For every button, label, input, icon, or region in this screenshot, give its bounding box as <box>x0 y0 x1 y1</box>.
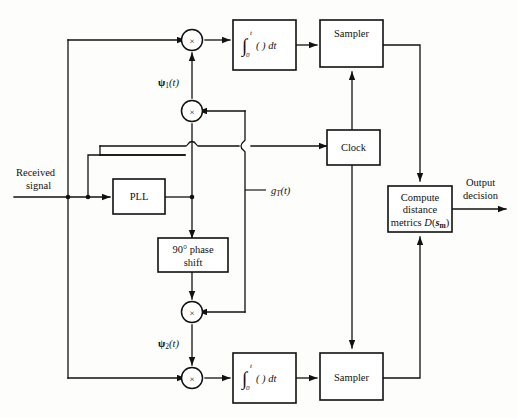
sampler-top-label: Sampler <box>334 28 369 39</box>
integrator-top-block[interactable]: ∫ t 0 ( ) dt <box>233 20 296 70</box>
junction-second-tap <box>86 195 91 200</box>
received-signal-label: Received signal <box>16 167 56 191</box>
integral-lower-limit: 0 <box>246 384 250 392</box>
phase-shift-block[interactable]: 90° phase shift <box>158 238 228 272</box>
mixer-bottom-signal[interactable]: × <box>182 368 203 389</box>
psi1-argument: (t) <box>169 77 179 89</box>
received-signal-line2: signal <box>26 180 51 191</box>
phase-shift-label-line1: 90° phase <box>172 244 214 255</box>
multiply-icon: × <box>189 107 194 117</box>
junction-input-tap <box>66 195 71 200</box>
integrator-bottom-block[interactable]: ∫ t 0 ( ) dt <box>233 353 296 403</box>
multiply-icon: × <box>189 308 194 318</box>
pll-label: PLL <box>130 191 149 202</box>
mixer-bottom-carrier[interactable]: × <box>182 302 203 323</box>
compute-label-line1: Compute <box>401 192 440 203</box>
compute-paren-close: ) <box>446 217 450 229</box>
clock-block[interactable]: Clock <box>327 130 380 165</box>
output-decision-line2: decision <box>463 190 499 201</box>
psi1-label: ψ1(t) <box>158 77 179 90</box>
compute-metrics-word: metrics <box>391 217 425 228</box>
multiply-icon: × <box>189 36 194 46</box>
multiply-icon: × <box>189 374 194 384</box>
wire-bus-hop-over-spine <box>100 142 239 147</box>
psi2-argument: (t) <box>169 338 179 350</box>
psi2-label: ψ2(t) <box>158 338 179 351</box>
output-decision-label: Output decision <box>463 177 499 201</box>
integrator-top-body: ( ) dt <box>256 40 277 52</box>
block-diagram-canvas: ∫ t 0 ( ) dt ∫ t 0 ( ) dt Sampler Sample… <box>0 0 518 418</box>
compute-metrics-block[interactable]: Compute distance metrics D(sm) <box>388 186 452 232</box>
wire-timing-vertical-jog <box>241 111 245 312</box>
pll-block[interactable]: PLL <box>113 179 165 214</box>
wire-sampler-top-to-compute <box>383 45 420 181</box>
sampler-bottom-block[interactable]: Sampler <box>320 353 383 400</box>
mixer-top-signal[interactable]: × <box>182 30 203 51</box>
sampler-top-block[interactable]: Sampler <box>320 20 383 67</box>
compute-label-line2: distance <box>403 204 438 215</box>
output-decision-line1: Output <box>466 177 495 188</box>
gt-argument: (t) <box>280 185 290 197</box>
gt-label: gT(t) <box>271 185 291 198</box>
integrator-bottom-body: ( ) dt <box>256 373 277 385</box>
integral-lower-limit: 0 <box>246 51 250 59</box>
phase-shift-label-line2: shift <box>184 257 203 268</box>
wire-sampler-bottom-to-compute <box>383 237 420 378</box>
clock-label: Clock <box>341 142 367 153</box>
sampler-bottom-label: Sampler <box>334 372 369 383</box>
received-signal-line1: Received <box>16 167 56 178</box>
mixer-top-carrier[interactable]: × <box>182 101 203 122</box>
